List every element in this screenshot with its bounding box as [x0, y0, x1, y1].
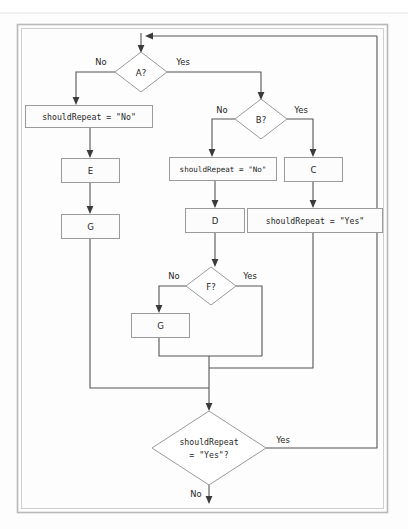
- edge-a-yes: [167, 72, 261, 94]
- edge-f-yes: [236, 286, 262, 356]
- set-shouldrepeat-yes-label: shouldRepeat = "Yes": [266, 216, 365, 226]
- set-shouldrepeat-no-left-label: shouldRepeat = "No": [42, 112, 136, 122]
- arrowhead-b-yes: [310, 149, 317, 157]
- edge-b-no: [212, 119, 235, 151]
- process-g-mid-label: G: [157, 321, 164, 331]
- arrowhead-b-no: [209, 149, 216, 157]
- decision-a-label: A?: [136, 68, 146, 78]
- arrowhead-d: [212, 200, 219, 208]
- node-decision-a[interactable]: A?: [115, 52, 167, 92]
- node-decision-loop-check[interactable]: shouldRepeat = "Yes"?: [152, 411, 266, 485]
- arrowhead-loopback: [145, 33, 153, 40]
- edge-loopcheck-yes: [266, 36, 377, 448]
- edge-label-b-yes: Yes: [293, 105, 308, 115]
- arrowhead-g-left: [87, 206, 94, 214]
- edge-a-no: [76, 72, 115, 99]
- node-process-g-left[interactable]: G: [62, 215, 120, 239]
- arrowhead-exit: [206, 496, 213, 504]
- arrowhead-a-no: [73, 97, 80, 105]
- set-shouldrepeat-no-mid-label: shouldRepeat = "No": [180, 165, 267, 174]
- arrowhead-f: [212, 259, 219, 267]
- edge-sryes-to-bottom: [209, 233, 313, 368]
- flowchart-page: A? shouldRepeat = "No" E G B? shouldRepe…: [0, 0, 408, 529]
- arrowhead-g-mid: [156, 305, 163, 313]
- node-process-d[interactable]: D: [186, 209, 245, 233]
- edge-b-yes: [287, 119, 313, 151]
- edge-f-no: [159, 286, 186, 307]
- node-process-e[interactable]: E: [62, 159, 120, 183]
- node-set-shouldrepeat-yes[interactable]: shouldRepeat = "Yes": [248, 209, 383, 233]
- process-c-label: C: [310, 165, 316, 175]
- decision-b-label: B?: [256, 115, 266, 125]
- edge-label-loop-no: No: [190, 489, 201, 499]
- decision-f-label: F?: [206, 282, 216, 292]
- process-d-label: D: [212, 216, 219, 226]
- node-set-shouldrepeat-no-left[interactable]: shouldRepeat = "No": [26, 106, 153, 128]
- arrowhead-e: [87, 150, 94, 158]
- edge-label-f-yes: Yes: [242, 271, 257, 281]
- decision-loop-check-label-line1: shouldRepeat: [179, 437, 238, 447]
- arrowhead-sryes: [310, 200, 317, 208]
- edge-label-a-yes: Yes: [175, 57, 190, 67]
- flowchart-canvas: A? shouldRepeat = "No" E G B? shouldRepe…: [0, 0, 408, 529]
- node-decision-b[interactable]: B?: [235, 99, 287, 139]
- decision-loop-check-label-line2: = "Yes"?: [189, 450, 229, 460]
- process-g-left-label: G: [87, 222, 94, 232]
- edge-label-f-no: No: [168, 271, 179, 281]
- edge-label-a-no: No: [95, 57, 106, 67]
- edge-label-b-no: No: [216, 105, 227, 115]
- edge-gmid-merge: [159, 338, 262, 356]
- node-process-g-mid[interactable]: G: [132, 314, 190, 338]
- arrowhead-loopcheck: [206, 403, 213, 411]
- node-decision-f[interactable]: F?: [186, 267, 236, 305]
- node-set-shouldrepeat-no-mid[interactable]: shouldRepeat = "No": [170, 158, 277, 181]
- decision-loop-check-shape: [152, 411, 266, 485]
- edge-label-loop-yes: Yes: [275, 435, 290, 445]
- node-process-c[interactable]: C: [285, 158, 343, 182]
- process-e-label: E: [88, 166, 93, 176]
- page-top-margin: [0, 0, 408, 13]
